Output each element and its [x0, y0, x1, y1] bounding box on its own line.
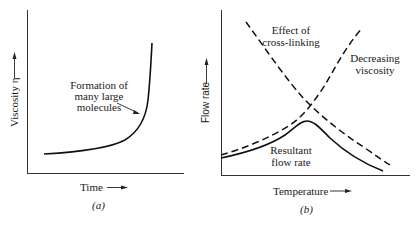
- caption-b-text: (b): [300, 203, 313, 215]
- resultant-line-2: flow rate: [266, 156, 316, 168]
- ylabel-arrow-b: [205, 58, 209, 84]
- caption-a-text: (a): [92, 199, 105, 211]
- ylabel-b: Flow rate: [200, 82, 212, 123]
- annotation-resultant: Resultant flow rate: [266, 144, 316, 168]
- ylabel-a-text: Viscosity η: [8, 78, 20, 127]
- xlabel-a-text: Time: [80, 181, 103, 193]
- ylabel-a: Viscosity η: [8, 78, 20, 127]
- ylabel-arrow-a: [13, 52, 17, 78]
- caption-b: (b): [300, 203, 313, 215]
- xlabel-arrow-a: [107, 186, 128, 190]
- cross-linking-line-1: Effect of: [262, 24, 320, 36]
- resultant-line-1: Resultant: [266, 144, 316, 156]
- xlabel-b-text: Temperature: [273, 185, 328, 197]
- xlabel-b: Temperature: [273, 185, 328, 197]
- annotation-a: Formation of many large molecules: [68, 80, 130, 113]
- annotation-cross-linking: Effect of cross-linking: [262, 24, 320, 48]
- xlabel-arrow-b: [330, 189, 352, 193]
- annotation-decreasing-viscosity: Decreasing viscosity: [350, 52, 400, 76]
- caption-a: (a): [92, 199, 105, 211]
- decreasing-viscosity-line-2: viscosity: [350, 64, 400, 76]
- ylabel-b-text: Flow rate: [200, 82, 211, 123]
- decreasing-viscosity-line-1: Decreasing: [350, 52, 400, 64]
- annotation-a-line-3: molecules: [68, 102, 130, 113]
- cross-linking-line-2: cross-linking: [262, 36, 320, 48]
- xlabel-a: Time: [80, 181, 103, 193]
